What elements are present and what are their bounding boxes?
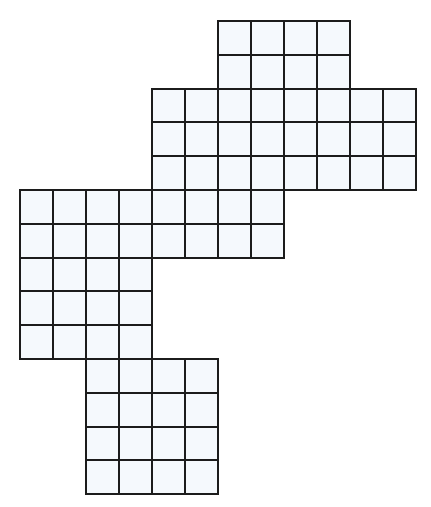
grid-cell xyxy=(250,54,285,90)
grid-cell xyxy=(217,189,252,225)
grid-cell xyxy=(316,20,351,56)
grid-cell xyxy=(184,155,219,191)
grid-cell xyxy=(151,459,186,495)
grid-cell xyxy=(118,223,153,259)
grid-cell xyxy=(349,155,384,191)
grid-cell xyxy=(151,358,186,394)
grid-cell xyxy=(283,121,318,157)
grid-cell xyxy=(118,290,153,326)
grid-cell xyxy=(217,155,252,191)
grid-cell xyxy=(151,426,186,462)
grid-cell xyxy=(19,223,54,259)
grid-cell xyxy=(151,121,186,157)
grid-cell xyxy=(85,290,120,326)
grid-cell xyxy=(250,155,285,191)
grid-cell xyxy=(283,88,318,124)
grid-cell xyxy=(151,88,186,124)
grid-cell xyxy=(217,20,252,56)
grid-cell xyxy=(151,155,186,191)
grid-cell xyxy=(151,223,186,259)
grid-cell xyxy=(118,324,153,360)
grid-cell xyxy=(184,392,219,428)
grid-cell xyxy=(316,54,351,90)
grid-cell xyxy=(184,88,219,124)
grid-cell xyxy=(217,54,252,90)
grid-cell xyxy=(283,54,318,90)
grid-cell xyxy=(52,290,87,326)
grid-cell xyxy=(382,155,417,191)
grid-cell xyxy=(85,223,120,259)
grid-cell xyxy=(19,324,54,360)
grid-cell xyxy=(382,121,417,157)
grid-cell xyxy=(283,20,318,56)
grid-cell xyxy=(217,121,252,157)
grid-cell xyxy=(85,426,120,462)
grid-cell xyxy=(250,88,285,124)
grid-cell xyxy=(283,155,318,191)
grid-cell xyxy=(52,324,87,360)
grid-cell xyxy=(316,88,351,124)
grid-cell xyxy=(85,392,120,428)
grid-cell xyxy=(118,189,153,225)
grid-cell xyxy=(250,20,285,56)
grid-cell xyxy=(19,189,54,225)
grid-cell xyxy=(118,392,153,428)
grid-cell xyxy=(19,290,54,326)
grid-cell xyxy=(85,189,120,225)
grid-cell xyxy=(19,257,54,293)
grid-cell xyxy=(217,88,252,124)
grid-cell xyxy=(184,121,219,157)
grid-cell xyxy=(85,358,120,394)
grid-cell xyxy=(52,223,87,259)
grid-cell xyxy=(118,426,153,462)
grid-cell xyxy=(85,257,120,293)
grid-cell xyxy=(382,88,417,124)
grid-cell xyxy=(118,459,153,495)
grid-cell xyxy=(316,121,351,157)
grid-cell xyxy=(250,223,285,259)
grid-cell xyxy=(118,358,153,394)
grid-cell xyxy=(316,155,351,191)
grid-cell xyxy=(184,459,219,495)
grid-cell xyxy=(52,257,87,293)
grid-cell xyxy=(151,189,186,225)
grid-cell xyxy=(184,223,219,259)
grid-cell xyxy=(184,189,219,225)
grid-cell xyxy=(52,189,87,225)
grid-cell xyxy=(250,189,285,225)
grid-cell xyxy=(118,257,153,293)
grid-cell xyxy=(85,324,120,360)
grid-cell xyxy=(349,121,384,157)
grid-cell xyxy=(250,121,285,157)
grid-cell xyxy=(184,358,219,394)
grid-cell xyxy=(217,223,252,259)
grid-figure xyxy=(0,0,431,507)
grid-cell xyxy=(184,426,219,462)
grid-cell xyxy=(85,459,120,495)
grid-cell xyxy=(151,392,186,428)
grid-cell xyxy=(349,88,384,124)
